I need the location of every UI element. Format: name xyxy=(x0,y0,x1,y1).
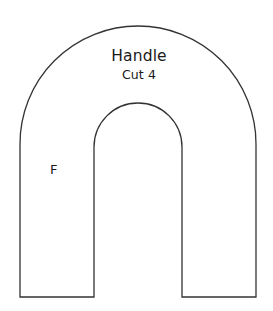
pattern-sheet: Handle Cut 4 F xyxy=(0,0,273,311)
fold-marker-label: F xyxy=(50,163,57,176)
cut-instruction-label: Cut 4 xyxy=(0,69,273,82)
pattern-title-label: Handle xyxy=(0,49,273,65)
